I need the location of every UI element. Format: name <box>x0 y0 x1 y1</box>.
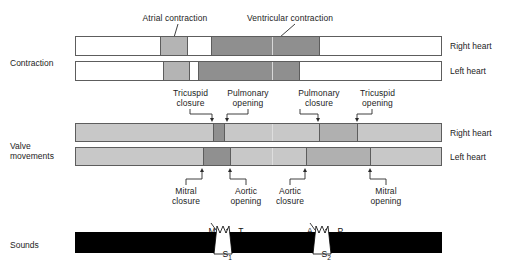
sound-label-s1: S1 <box>213 239 232 270</box>
sound-component-leader-lines <box>0 0 512 270</box>
sound-label-s2-sub: 2 <box>327 254 331 261</box>
sound-label-s2: S2 <box>312 239 331 270</box>
bar-sounds <box>75 232 442 253</box>
sound-label-s1-sub: 1 <box>228 254 232 261</box>
cardiac-cycle-diagram: Atrial contraction Ventricular contracti… <box>0 0 512 270</box>
